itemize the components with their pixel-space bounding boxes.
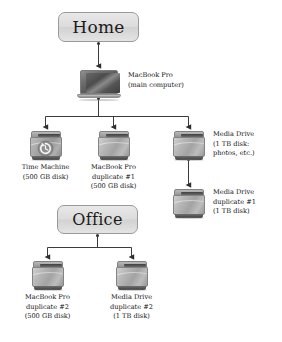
laptop-shadow [79,99,119,101]
laptop-lid [80,70,118,94]
label-media-drive: Media Drive (1 TB disk: photos, etc.) [213,130,255,159]
backup-topology-diagram: Home Office MacBook Pro (main computer) … [0,0,282,342]
group-box-office[interactable]: Office [57,205,138,234]
drive-shadow [117,289,147,291]
drive-body [173,137,205,157]
laptop-screen [86,73,120,93]
drive-shadow [99,159,129,161]
time-machine-clock-icon [37,140,54,157]
hard-drive-icon-macbook-duplicate-2[interactable] [31,260,65,291]
hard-drive-icon-macbook-duplicate-1[interactable] [97,130,131,161]
label-macbook-pro-main: MacBook Pro (main computer) [128,71,184,90]
drive-body [173,195,205,215]
hard-drive-icon-media-drive-duplicate-2[interactable] [115,260,149,291]
drive-shadow [174,159,204,161]
laptop-base [77,94,121,98]
laptop-icon[interactable] [77,70,121,100]
group-box-home[interactable]: Home [58,12,139,42]
time-machine-drive-icon[interactable] [29,130,63,161]
drive-body [116,267,148,287]
hard-drive-icon-media-drive[interactable] [172,130,206,161]
drive-shadow [174,217,204,219]
drive-body [98,137,130,157]
label-media-drive-duplicate-1: Media Drive duplicate #1 (1 TB disk) [213,188,256,217]
drive-body [32,267,64,287]
drive-shadow [33,289,63,291]
label-macbook-pro-duplicate-2: MacBook Pro duplicate #2 (500 GB disk) [8,293,87,322]
label-media-drive-duplicate-2: Media Drive duplicate #2 (1 TB disk) [92,293,171,322]
drive-shadow [31,159,61,161]
hard-drive-icon-media-drive-duplicate-1[interactable] [172,188,206,219]
label-macbook-pro-duplicate-1: MacBook Pro duplicate #1 (500 GB disk) [74,163,153,192]
